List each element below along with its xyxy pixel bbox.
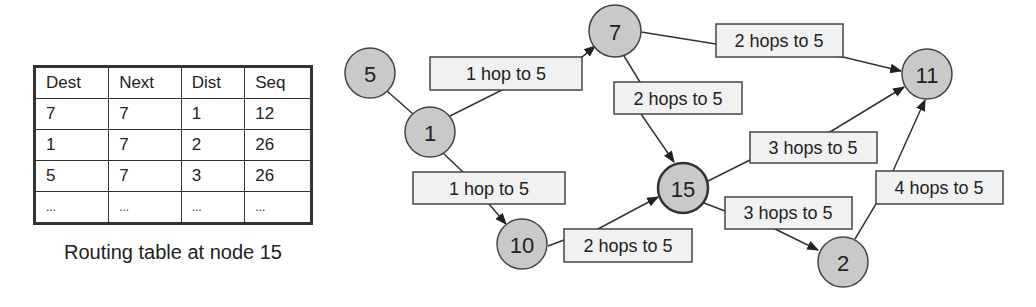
edge-2-11	[855, 100, 925, 239]
node-2: 2	[818, 237, 868, 287]
hop-label-text: 2 hops to 5	[633, 89, 722, 109]
hop-label: 1 hop to 5	[430, 57, 582, 90]
node-label: 10	[510, 233, 534, 258]
hop-label: 2 hops to 5	[614, 82, 742, 114]
node-label: 1	[424, 121, 436, 146]
node-5: 5	[345, 48, 395, 98]
hop-label: 3 hops to 5	[750, 132, 877, 163]
node-1: 1	[405, 107, 455, 157]
node-11: 11	[902, 49, 952, 99]
hop-label-text: 3 hops to 5	[768, 138, 857, 158]
hop-label-text: 1 hop to 5	[449, 179, 529, 199]
hop-label: 2 hops to 5	[716, 24, 843, 57]
node-label: 2	[837, 251, 849, 276]
hop-label: 2 hops to 5	[564, 229, 692, 262]
node-label: 15	[671, 177, 695, 202]
node-label: 5	[364, 62, 376, 87]
network-diagram: 1 hop to 5 2 hops to 5 2 hops to 5 1 hop…	[0, 0, 1036, 307]
hop-label-text: 3 hops to 5	[743, 203, 832, 223]
hop-label: 3 hops to 5	[725, 197, 852, 229]
node-15: 15	[658, 163, 708, 213]
hop-label-text: 1 hop to 5	[466, 64, 546, 84]
hop-label: 4 hops to 5	[876, 171, 1003, 204]
hop-label-text: 2 hops to 5	[583, 236, 672, 256]
node-label: 7	[609, 20, 621, 45]
hop-label-text: 4 hops to 5	[894, 178, 983, 198]
node-10: 10	[497, 219, 547, 269]
node-7: 7	[589, 5, 641, 57]
edge-5-1	[387, 91, 413, 114]
hop-label-text: 2 hops to 5	[734, 31, 823, 51]
node-label: 11	[916, 63, 939, 88]
hop-label: 1 hop to 5	[413, 172, 565, 204]
